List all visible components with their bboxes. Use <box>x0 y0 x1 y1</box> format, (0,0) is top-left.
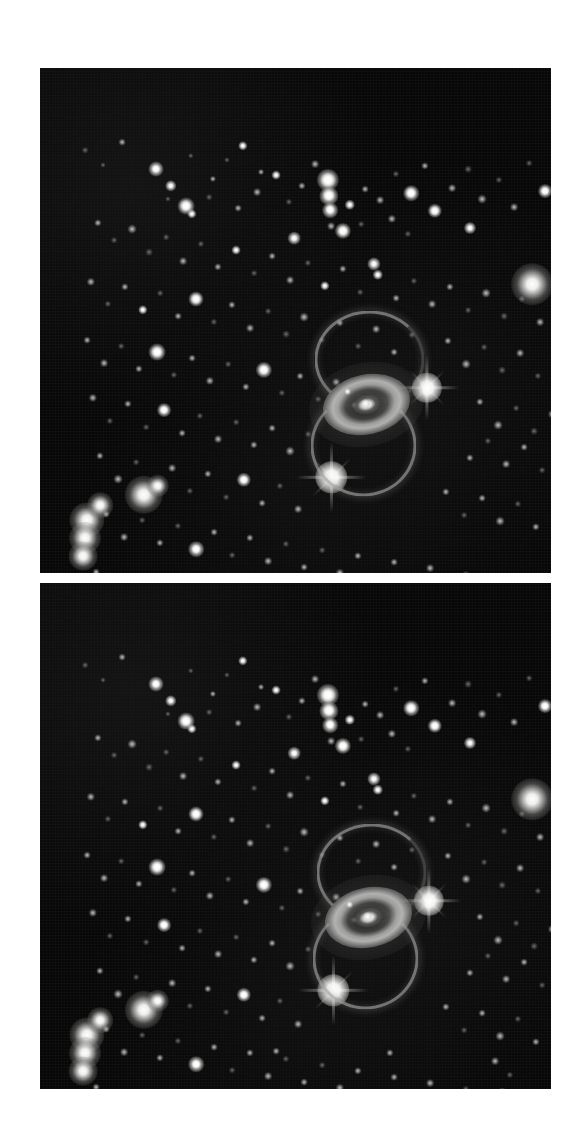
ring-knot <box>346 901 353 908</box>
supernova-core <box>361 399 370 408</box>
sn1987a-nebula-bottom <box>40 583 551 1089</box>
triple-ring-nebula <box>366 404 367 405</box>
astronomy-panel-bottom <box>40 583 551 1089</box>
triple-ring-nebula <box>368 917 369 918</box>
sn1987a-nebula-top <box>40 68 551 573</box>
supernova-core <box>363 912 372 921</box>
figure-root <box>0 0 578 1132</box>
ring-knot <box>344 388 351 395</box>
astronomy-panel-top <box>40 68 551 573</box>
